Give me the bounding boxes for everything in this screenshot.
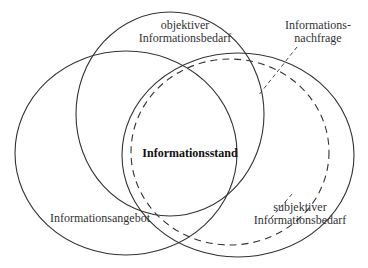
label-informationsstand: Informationsstand (130, 147, 250, 160)
label-nachfrage-line2: nachfrage (268, 32, 368, 45)
label-subjektiver-line2: Informationsbedarf (240, 214, 360, 227)
label-objektiver-bedarf: objektiver Informationsbedarf (120, 19, 250, 45)
label-informationsnachfrage: Informations- nachfrage (268, 19, 368, 45)
venn-diagram: objektiver Informationsbedarf Informatio… (0, 0, 368, 268)
label-objektiver-line2: Informationsbedarf (120, 32, 250, 45)
leader-line-nachfrage (258, 47, 297, 96)
label-subjektiver-bedarf: subjektiver Informationsbedarf (240, 201, 360, 227)
label-informationsangebot: Informationsangebot (40, 212, 160, 225)
